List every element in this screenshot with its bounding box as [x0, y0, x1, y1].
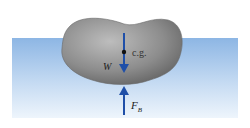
- cg-label: c.g.: [132, 47, 146, 58]
- center-of-gravity-dot: [122, 50, 126, 54]
- buoyant-force-subscript: B: [138, 106, 143, 114]
- buoyancy-diagram: c.g. W FB: [0, 0, 250, 128]
